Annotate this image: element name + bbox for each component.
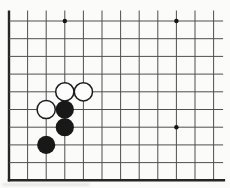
scan-smudge xyxy=(2,183,90,186)
go-board-diagram xyxy=(0,0,230,188)
scanned-page xyxy=(0,0,230,188)
black-stone xyxy=(37,136,55,154)
star-point xyxy=(63,19,67,23)
star-point xyxy=(174,19,178,23)
white-stone xyxy=(56,83,74,101)
star-point xyxy=(174,125,178,129)
black-stone xyxy=(56,100,74,118)
black-stone xyxy=(56,118,74,136)
white-stone xyxy=(74,83,92,101)
white-stone xyxy=(37,100,55,118)
